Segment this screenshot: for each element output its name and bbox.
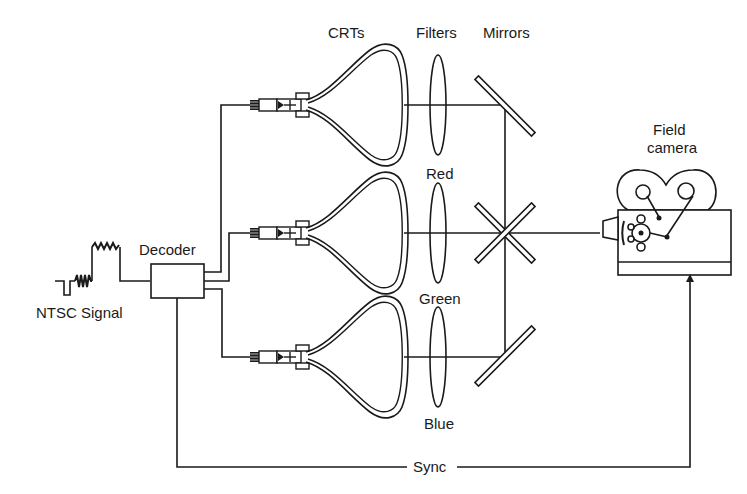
label-filters: Filters	[416, 25, 457, 40]
label-green: Green	[419, 291, 461, 306]
label-mirrors: Mirrors	[483, 25, 530, 40]
label-ntsc-signal: NTSC Signal	[36, 305, 123, 320]
field-camera-icon	[603, 170, 731, 275]
crt-blue	[250, 296, 408, 418]
label-sync: Sync	[413, 459, 446, 474]
label-field: Field	[653, 122, 686, 137]
label-blue: Blue	[424, 416, 454, 431]
decoder-box	[151, 264, 204, 298]
diagram-canvas	[0, 0, 747, 494]
ntsc-waveform	[55, 243, 150, 295]
label-red: Red	[426, 166, 454, 181]
label-crts: CRTs	[328, 25, 364, 40]
crt-green	[250, 172, 408, 294]
label-decoder: Decoder	[139, 242, 196, 257]
label-camera: camera	[647, 140, 697, 155]
decoder-outputs	[204, 105, 250, 357]
crt-red	[250, 44, 408, 166]
